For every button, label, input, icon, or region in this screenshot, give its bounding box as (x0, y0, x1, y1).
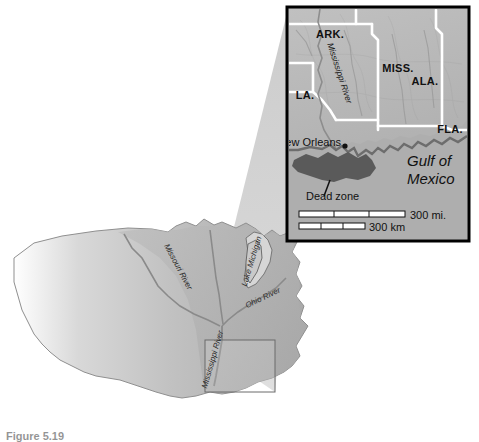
figure-caption: Figure 5.19 (6, 430, 64, 442)
new-orleans-marker (342, 143, 347, 148)
label-florida: FLA. (437, 123, 463, 135)
label-gulf-of-mexico: Gulf of (407, 152, 453, 169)
inset-map: ARK. MISS. ALA. LA. FLA. Mississippi Riv… (277, 7, 470, 242)
label-dead-zone: Dead zone (306, 190, 359, 202)
label-alabama: ALA. (412, 75, 439, 87)
label-gulf-of-mexico-line2: Mexico (407, 170, 455, 187)
label-scale-kilometers: 300 km (369, 221, 405, 233)
label-mississippi-state: MISS. (382, 62, 413, 74)
label-louisiana: LA. (296, 89, 315, 101)
main-map: Missouri River Ohio River Mississippi Ri… (14, 219, 308, 398)
label-arkansas: ARK. (316, 28, 344, 40)
label-scale-miles: 300 mi. (410, 209, 446, 221)
